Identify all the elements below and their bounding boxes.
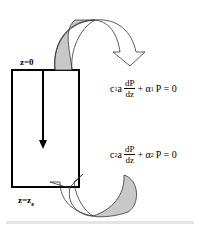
eq-alpha-sub: 1 — [151, 86, 154, 92]
eq-rhs: P = 0 — [156, 149, 177, 160]
eq-rhs: P = 0 — [156, 83, 177, 94]
eq-fraction: dP dz — [124, 144, 136, 165]
bottom-boundary-equation: c2 a dP dz + α2 P = 0 — [110, 144, 177, 165]
label-z0: z=0 — [20, 57, 34, 67]
eq-a: a — [117, 149, 121, 160]
eq-alpha-sub: 2 — [151, 152, 154, 158]
eq-a: a — [117, 83, 121, 94]
faded-caption — [6, 221, 194, 224]
label-ze-sub: e — [31, 201, 34, 207]
eq-plus: + α — [137, 83, 150, 94]
column-rectangle — [12, 70, 79, 187]
eq-den: dz — [125, 155, 134, 165]
label-ze: z=ze — [18, 195, 34, 207]
eq-plus: + α — [137, 149, 150, 160]
eq-num: dP — [124, 144, 136, 155]
eq-den: dz — [125, 89, 134, 99]
top-boundary-equation: c1 a dP dz + α1 P = 0 — [110, 78, 177, 99]
bottom-curved-arrow-icon — [93, 175, 137, 217]
top-curved-arrow-icon — [55, 20, 95, 70]
eq-fraction: dP dz — [124, 78, 136, 99]
eq-num: dP — [124, 78, 136, 89]
label-ze-text: z=z — [18, 195, 31, 205]
